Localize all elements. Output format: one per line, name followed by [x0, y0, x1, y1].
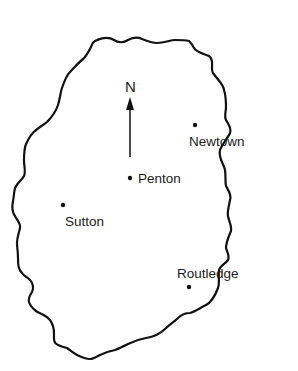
- town-penton: Penton: [128, 171, 181, 186]
- town-marker-icon: [193, 123, 197, 127]
- town-marker-icon: [187, 285, 191, 289]
- town-marker-icon: [61, 203, 65, 207]
- north-label: N: [125, 78, 136, 95]
- town-routledge: Routledge: [177, 266, 239, 289]
- town-label: Newtown: [189, 134, 245, 149]
- north-arrow-icon: [126, 97, 134, 110]
- town-label: Penton: [138, 171, 181, 186]
- north-arrow: N: [125, 78, 136, 157]
- town-marker-icon: [128, 176, 132, 180]
- town-sutton: Sutton: [61, 203, 104, 229]
- town-label: Sutton: [65, 214, 104, 229]
- town-label: Routledge: [177, 266, 239, 281]
- island-map: N Newtown Penton Sutton Routledge: [0, 0, 298, 371]
- island-boundary: [12, 38, 231, 359]
- town-newtown: Newtown: [189, 123, 245, 149]
